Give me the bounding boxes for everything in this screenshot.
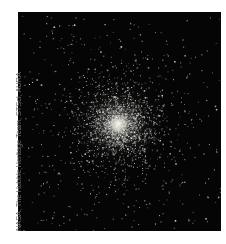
star-cluster-photo — [18, 12, 221, 231]
star-field — [18, 12, 221, 231]
photo-credit: NASA, The Hubble Heritage Team, STScI, A… — [14, 72, 23, 231]
